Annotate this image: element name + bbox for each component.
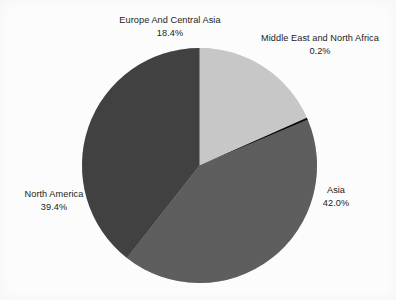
slice-label-europe-name: Europe And Central Asia [104,14,236,27]
slice-label-north-america: North America 39.4% [2,188,106,213]
slice-label-north-america-name: North America [2,188,106,201]
slice-label-asia-name: Asia [300,184,372,197]
slice-label-mena-name: Middle East and North Africa [246,32,394,45]
slice-label-asia: Asia 42.0% [300,184,372,209]
pie-slice-group [82,48,317,283]
slice-label-mena-value: 0.2% [246,45,394,58]
slice-label-europe-value: 18.4% [104,27,236,40]
slice-label-north-america-value: 39.4% [2,201,106,214]
slice-label-europe-and-central-asia: Europe And Central Asia 18.4% [104,14,236,39]
pie-chart-figure: Europe And Central Asia 18.4% Middle Eas… [0,0,396,300]
slice-label-middle-east-and-north-africa: Middle East and North Africa 0.2% [246,32,394,57]
slice-label-asia-value: 42.0% [300,197,372,210]
